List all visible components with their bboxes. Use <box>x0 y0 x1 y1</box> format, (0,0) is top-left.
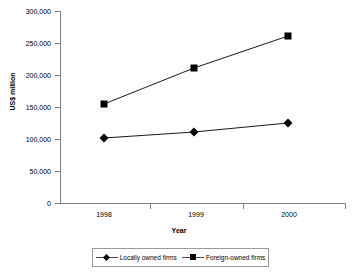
line-chart: US$ million 300,000 250,000 200,000 150,… <box>0 0 358 276</box>
y-tick-label-50000: 50,000 <box>5 168 51 175</box>
legend-label-locally-owned-firms: Locally owned firms <box>119 254 177 261</box>
x-tick-label-2000: 2000 <box>259 211 319 219</box>
y-tick-300000 <box>55 11 60 12</box>
y-tick-100000 <box>55 139 60 140</box>
diamond-marker-icon <box>96 253 118 262</box>
legend-item-locally-owned-firms: Locally owned firms <box>96 253 177 262</box>
y-axis-title: US$ million <box>9 52 16 132</box>
y-tick-250000 <box>55 43 60 44</box>
y-tick-label-300000: 300,000 <box>5 8 51 15</box>
y-axis-line <box>60 11 61 204</box>
x-tick-1 <box>150 204 151 209</box>
x-axis-title: Year <box>0 227 358 234</box>
legend-label-foreign-owned-firms: Foreign-owned firms <box>205 254 265 261</box>
y-tick-label-200000: 200,000 <box>5 72 51 79</box>
x-tick-2 <box>243 204 244 209</box>
x-tick-label-1999: 1999 <box>166 211 226 219</box>
y-tick-label-0: 0 <box>5 200 51 207</box>
series-foreign-owned-firms <box>101 33 292 108</box>
y-tick-0 <box>55 203 60 204</box>
legend-item-foreign-owned-firms: Foreign-owned firms <box>182 253 265 262</box>
square-marker-icon <box>182 253 204 262</box>
x-tick-3 <box>345 204 346 209</box>
y-tick-200000 <box>55 75 60 76</box>
y-tick-label-250000: 250,000 <box>5 40 51 47</box>
y-tick-label-100000: 100,000 <box>5 136 51 143</box>
y-tick-50000 <box>55 171 60 172</box>
series-plot-layer <box>0 0 358 276</box>
x-tick-label-1998: 1998 <box>74 211 134 219</box>
y-tick-label-150000: 150,000 <box>5 104 51 111</box>
series-locally-owned-firms <box>100 119 293 143</box>
chart-legend: Locally owned firms Foreign-owned firms <box>92 248 269 267</box>
y-tick-150000 <box>55 107 60 108</box>
x-axis-line <box>60 203 346 204</box>
